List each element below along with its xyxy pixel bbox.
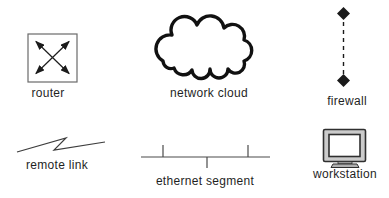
router-icon [27,33,78,83]
workstation-label: workstation [305,167,385,181]
legend-canvas: router network cloud firewall remote lin… [0,0,389,198]
network-cloud-icon [141,13,267,85]
router-label: router [18,86,78,100]
ethernet-segment-icon [138,142,273,170]
network-cloud-label: network cloud [149,86,269,100]
remote-link-label: remote link [17,158,97,172]
ethernet-segment-label: ethernet segment [145,174,265,188]
firewall-label: firewall [317,94,377,108]
workstation-icon [322,128,369,169]
firewall-icon [330,5,357,90]
remote-link-icon [14,134,109,156]
